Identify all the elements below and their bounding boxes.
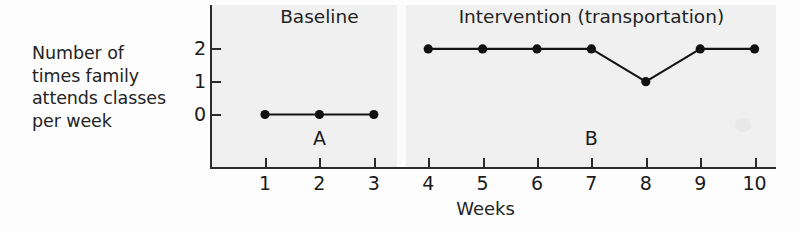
x-tick-label: 6 bbox=[517, 172, 557, 194]
x-tick-label: 10 bbox=[735, 172, 775, 194]
y-tick bbox=[212, 81, 221, 83]
x-tick bbox=[374, 158, 376, 167]
x-tick-label: 5 bbox=[463, 172, 503, 194]
x-tick-label: 1 bbox=[245, 172, 285, 194]
x-tick bbox=[537, 158, 539, 167]
y-axis-caption: Number of times family attends classes p… bbox=[32, 42, 197, 132]
x-tick-label: 7 bbox=[571, 172, 611, 194]
y-tick-label: 0 bbox=[180, 103, 206, 125]
x-axis-title: Weeks bbox=[0, 198, 801, 219]
x-tick-label: 3 bbox=[354, 172, 394, 194]
x-tick bbox=[591, 158, 593, 167]
x-tick-label: 2 bbox=[299, 172, 339, 194]
x-axis-line bbox=[210, 167, 776, 169]
x-tick bbox=[700, 158, 702, 167]
x-tick bbox=[428, 158, 430, 167]
x-tick bbox=[646, 158, 648, 167]
phase-header-intervention: Intervention (transportation) bbox=[191, 6, 801, 27]
phase-label-b: B bbox=[191, 127, 801, 149]
x-tick-label: 4 bbox=[408, 172, 448, 194]
y-tick-label: 2 bbox=[180, 37, 206, 59]
x-tick bbox=[755, 158, 757, 167]
y-tick bbox=[212, 48, 221, 50]
x-tick bbox=[483, 158, 485, 167]
x-tick bbox=[319, 158, 321, 167]
x-tick-label: 8 bbox=[626, 172, 666, 194]
y-tick-label: 1 bbox=[180, 70, 206, 92]
x-tick bbox=[265, 158, 267, 167]
y-tick bbox=[212, 114, 221, 116]
single-subject-design-figure: Number of times family attends classes p… bbox=[0, 0, 801, 231]
x-tick-label: 9 bbox=[680, 172, 720, 194]
